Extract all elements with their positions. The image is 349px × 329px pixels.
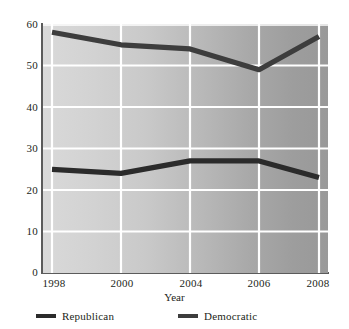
x-tick-2000: 2000 bbox=[111, 277, 134, 289]
x-tick-2008: 2008 bbox=[307, 277, 330, 289]
y-tick-50: 50 bbox=[4, 60, 38, 71]
x-tick-2004: 2004 bbox=[180, 277, 203, 289]
series-line-republican bbox=[52, 161, 319, 178]
legend-swatch-republican bbox=[36, 314, 56, 318]
x-tick-2006: 2006 bbox=[248, 277, 271, 289]
y-tick-30: 30 bbox=[4, 143, 38, 154]
y-tick-20: 20 bbox=[4, 185, 38, 196]
line-chart-figure: 60 50 40 30 20 10 0 1998 2000 2004 2006 … bbox=[0, 0, 349, 329]
legend-label-democratic: Democratic bbox=[204, 309, 257, 323]
series-line-democratic bbox=[52, 32, 319, 69]
legend-label-republican: Republican bbox=[62, 309, 114, 323]
legend-swatch-democratic bbox=[178, 314, 198, 318]
plot-area bbox=[43, 24, 328, 273]
x-axis-title: Year bbox=[0, 291, 349, 303]
plot-canvas bbox=[43, 24, 328, 273]
chart-legend: Republican Democratic bbox=[0, 309, 349, 325]
x-tick-1998: 1998 bbox=[43, 277, 66, 289]
y-tick-60: 60 bbox=[4, 19, 38, 30]
y-tick-10: 10 bbox=[4, 226, 38, 237]
legend-item-democratic: Democratic bbox=[178, 309, 257, 323]
legend-item-republican: Republican bbox=[36, 309, 114, 323]
y-tick-40: 40 bbox=[4, 102, 38, 113]
